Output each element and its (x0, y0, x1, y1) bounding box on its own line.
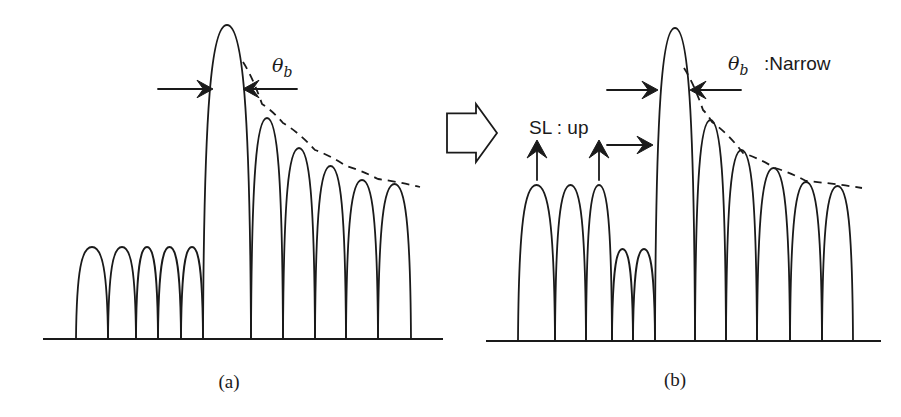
sidelobe (181, 247, 203, 339)
sidelobe (518, 185, 555, 341)
sidelobe (726, 150, 757, 341)
sidelobe (822, 186, 853, 341)
panel-a-radiation-pattern: θb (a) (43, 25, 443, 393)
sidelobe (346, 180, 378, 339)
panel-b-sidelobe-note: SL : up (529, 117, 589, 138)
sidelobe (555, 185, 586, 341)
sidelobe (612, 249, 633, 341)
panel-b-radiation-pattern: θb :Narrow SL : up (b) (486, 28, 881, 391)
sidelobe (158, 247, 181, 339)
hollow-right-arrow-icon (447, 104, 497, 162)
panel-b-beamwidth-note: :Narrow (764, 53, 831, 74)
sidelobe (757, 168, 790, 341)
sidelobe (108, 247, 136, 339)
sidelobe (315, 166, 346, 339)
sidelobe (76, 247, 108, 339)
panel-a-caption: (a) (218, 371, 239, 393)
panel-b-caption: (b) (664, 369, 686, 391)
sidelobe (633, 249, 655, 341)
panel-b-beamwidth-label: θb (728, 52, 748, 78)
panel-b-lobes (518, 28, 853, 341)
panel-a-lobes (76, 25, 411, 339)
panel-a-beamwidth-arrows-icon (158, 80, 297, 98)
sidelobe (251, 118, 283, 339)
sidelobe (378, 184, 411, 339)
panel-b-sidelobe-up-arrows-icon (527, 136, 653, 180)
antenna-pattern-diagram: θb (a) θb :Narrow SL : up (b) (0, 0, 901, 417)
sidelobe (283, 148, 315, 339)
panel-a-beamwidth-label: θb (272, 54, 292, 80)
sidelobe (695, 120, 726, 341)
panel-b-beamwidth-arrows-icon (607, 81, 741, 99)
main-lobe (655, 28, 695, 341)
panel-b-sidelobe-envelope (684, 68, 862, 188)
sidelobe (790, 182, 822, 341)
main-lobe (203, 25, 251, 339)
sidelobe (136, 247, 158, 339)
panel-a-sidelobe-envelope (243, 62, 420, 187)
sidelobe (586, 185, 612, 341)
